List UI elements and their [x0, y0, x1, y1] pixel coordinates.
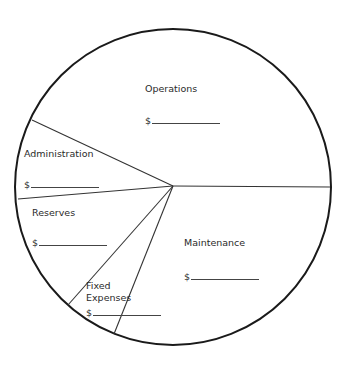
dollar-sign: $ [86, 307, 92, 318]
dollar-sign: $ [32, 237, 38, 248]
fixed-expenses-amount-field[interactable]: $ [86, 307, 161, 319]
fixed-expenses-label-line1: Fixed [86, 280, 111, 292]
fixed-expenses-label-line2: Expenses [86, 292, 131, 304]
dollar-sign: $ [184, 271, 190, 282]
administration-label: Administration [24, 148, 94, 160]
dollar-sign: $ [24, 179, 30, 190]
administration-amount-field[interactable]: $ [24, 179, 99, 191]
amount-blank-line [93, 314, 161, 316]
maintenance-amount-field[interactable]: $ [184, 271, 259, 283]
reserves-label: Reserves [32, 207, 75, 219]
reserves-amount-field[interactable]: $ [32, 237, 107, 249]
divider-operations-maintenance [173, 186, 330, 187]
dollar-sign: $ [145, 115, 151, 126]
operations-amount-field[interactable]: $ [145, 115, 220, 127]
maintenance-label: Maintenance [184, 237, 245, 249]
amount-blank-line [152, 122, 220, 124]
amount-blank-line [39, 244, 107, 246]
amount-blank-line [31, 186, 99, 188]
amount-blank-line [191, 278, 259, 280]
budget-pie-chart: Operations $ Administration $ Reserves $… [0, 0, 346, 366]
operations-label: Operations [145, 83, 197, 95]
